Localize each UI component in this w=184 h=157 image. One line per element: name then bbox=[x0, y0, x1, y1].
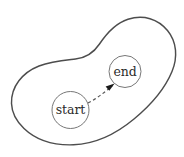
start-node-label: start bbox=[56, 102, 85, 117]
diagram-canvas: start end bbox=[0, 0, 184, 157]
end-node-label: end bbox=[113, 64, 136, 79]
canvas-background bbox=[0, 0, 184, 157]
